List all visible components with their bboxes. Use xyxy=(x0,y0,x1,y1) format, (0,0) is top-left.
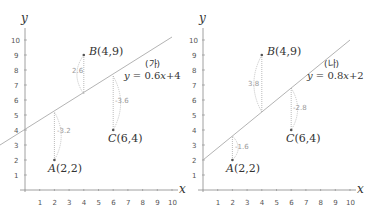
svg-text:7: 7 xyxy=(14,82,18,90)
svg-text:6: 6 xyxy=(289,199,294,207)
svg-text:5: 5 xyxy=(275,199,279,207)
right-x-ticks: 1 2 3 4 5 6 7 8 9 10 xyxy=(216,189,355,207)
svg-text:3: 3 xyxy=(67,199,71,207)
left-x-axis-label: x xyxy=(179,182,186,196)
svg-text:6: 6 xyxy=(14,97,19,105)
svg-text:8: 8 xyxy=(192,67,196,75)
left-point-a xyxy=(53,159,56,162)
left-point-label-b: B(4,9) xyxy=(88,45,123,58)
right-point-c xyxy=(290,129,293,132)
svg-text:3: 3 xyxy=(245,199,249,207)
svg-text:5: 5 xyxy=(192,112,196,120)
svg-text:9: 9 xyxy=(155,199,159,207)
right-point-label-a: A(2,2) xyxy=(225,162,260,175)
right-residual-label-b: 3.8 xyxy=(248,80,259,88)
right-point-label-b: B(4,9) xyxy=(266,45,301,58)
left-y-axis-label: y xyxy=(20,11,28,25)
svg-text:5: 5 xyxy=(14,112,18,120)
svg-text:7: 7 xyxy=(304,199,308,207)
left-panel-label: (가) xyxy=(145,59,160,69)
left-regression-line xyxy=(0,37,172,145)
svg-text:1: 1 xyxy=(38,199,42,207)
svg-text:7: 7 xyxy=(192,82,196,90)
svg-text:1: 1 xyxy=(14,172,18,180)
svg-text:9: 9 xyxy=(333,199,337,207)
svg-text:10: 10 xyxy=(168,199,177,207)
left-point-label-a: A(2,2) xyxy=(47,162,82,175)
left-equation: y = 0.6x+4 xyxy=(123,70,181,81)
svg-text:4: 4 xyxy=(82,199,87,207)
right-regression-line xyxy=(203,40,350,160)
right-residual-label-c: -2.8 xyxy=(293,104,307,112)
left-point-b xyxy=(83,54,86,57)
svg-text:3: 3 xyxy=(14,142,18,150)
left-residual-label-a: -3.2 xyxy=(57,127,71,135)
left-panel: y x 1 2 3 4 5 6 7 8 9 10 1 2 3 4 5 6 7 8… xyxy=(0,11,186,207)
svg-text:6: 6 xyxy=(192,97,197,105)
svg-text:2: 2 xyxy=(192,157,196,165)
svg-text:6: 6 xyxy=(111,199,116,207)
svg-text:7: 7 xyxy=(126,199,130,207)
svg-text:3: 3 xyxy=(192,142,196,150)
svg-text:10: 10 xyxy=(346,199,355,207)
svg-text:8: 8 xyxy=(141,199,145,207)
right-x-axis-label: x xyxy=(357,182,364,196)
right-panel-label: (나) xyxy=(324,59,339,69)
right-y-axis-label: y xyxy=(198,11,206,25)
svg-text:9: 9 xyxy=(192,52,196,60)
regression-comparison-diagram: y x 1 2 3 4 5 6 7 8 9 10 1 2 3 4 5 6 7 8… xyxy=(0,0,375,220)
right-point-b xyxy=(261,54,264,57)
svg-text:1: 1 xyxy=(192,172,196,180)
left-point-label-c: C(6,4) xyxy=(108,132,143,145)
right-residual-label-a: -1.6 xyxy=(235,143,249,151)
right-point-label-c: C(6,4) xyxy=(286,132,321,145)
svg-text:8: 8 xyxy=(14,67,18,75)
left-point-c xyxy=(112,129,115,132)
left-residual-label-c: -3.6 xyxy=(115,97,129,105)
left-arc-a xyxy=(54,112,61,160)
svg-text:10: 10 xyxy=(11,37,20,45)
svg-text:4: 4 xyxy=(260,199,265,207)
svg-text:1: 1 xyxy=(216,199,220,207)
left-residual-label-b: 2.6 xyxy=(72,67,84,75)
right-point-a xyxy=(231,159,234,162)
svg-text:5: 5 xyxy=(97,199,101,207)
svg-text:8: 8 xyxy=(319,199,323,207)
svg-text:10: 10 xyxy=(189,37,198,45)
svg-text:2: 2 xyxy=(52,199,56,207)
svg-text:2: 2 xyxy=(14,157,18,165)
svg-text:2: 2 xyxy=(230,199,234,207)
left-x-ticks: 1 2 3 4 5 6 7 8 9 10 xyxy=(38,189,177,207)
right-panel: y x 1 2 3 4 5 6 7 8 9 10 1 2 3 4 5 6 7 8… xyxy=(189,11,364,207)
svg-text:4: 4 xyxy=(192,127,197,135)
svg-text:9: 9 xyxy=(14,52,18,60)
right-equation: y = 0.8x+2 xyxy=(306,70,364,81)
